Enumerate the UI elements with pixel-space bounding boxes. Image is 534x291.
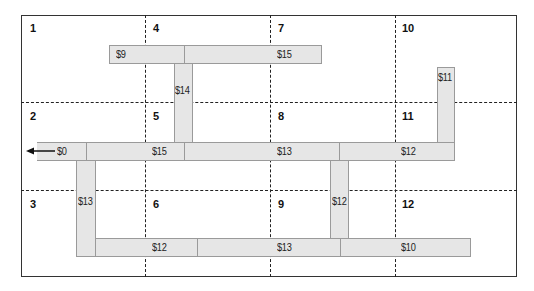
road-vertical-2-3 [76, 160, 96, 257]
road-segment-divider [184, 143, 185, 160]
zone-label-9: 9 [278, 198, 284, 210]
cost-label: $14 [175, 84, 190, 96]
exit-arrow-icon [26, 146, 56, 156]
cost-label: $0 [57, 145, 67, 157]
road-segment-divider [339, 143, 340, 160]
road-segment-divider [86, 143, 87, 160]
road-segment-divider [197, 239, 198, 256]
cost-label: $13 [277, 241, 292, 253]
zone-label-3: 3 [30, 198, 36, 210]
cost-label: $15 [152, 145, 167, 157]
cost-label: $12 [152, 241, 167, 253]
cost-label: $9 [116, 48, 126, 60]
zone-label-10: 10 [402, 22, 414, 34]
road-middle [37, 142, 455, 161]
zone-label-11: 11 [402, 110, 414, 122]
cost-label: $11 [438, 71, 452, 83]
cost-label: $13 [78, 195, 93, 207]
zone-label-4: 4 [153, 22, 159, 34]
cost-label: $12 [401, 145, 416, 157]
cost-label: $13 [277, 145, 292, 157]
zone-label-8: 8 [278, 110, 284, 122]
zone-label-2: 2 [30, 110, 36, 122]
zone-label-6: 6 [153, 198, 159, 210]
zone-label-7: 7 [278, 22, 284, 34]
cost-label: $10 [401, 241, 416, 253]
road-segment-divider [340, 239, 341, 256]
zone-label-1: 1 [30, 22, 36, 34]
cost-label: $12 [332, 195, 347, 207]
cost-label: $15 [277, 48, 292, 60]
road-segment-divider [184, 46, 185, 63]
zone-label-5: 5 [153, 110, 159, 122]
zone-label-12: 12 [402, 198, 414, 210]
road-vertical-4-5 [174, 63, 193, 143]
